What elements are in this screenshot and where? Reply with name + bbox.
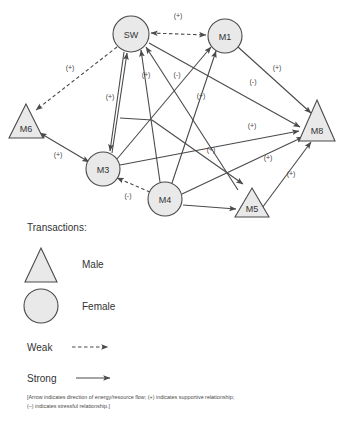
sociogram-diagram: SW M1 M6 M8 M3 M4 M5 (+) (+) (+) (+) (-)…	[0, 0, 345, 422]
node-sw-label: SW	[124, 30, 139, 40]
edge-label-sw-m8: (-)	[250, 78, 257, 86]
legend-female-icon	[24, 289, 58, 323]
edge-sw-m6	[36, 47, 117, 110]
edge-m4-m5	[183, 205, 236, 209]
edge-m6-m3	[40, 133, 89, 162]
legend: Transactions: Male Female Weak Strong [A…	[24, 222, 235, 409]
legend-title: Transactions:	[27, 222, 87, 233]
edge-sw-m3	[110, 52, 124, 151]
legend-weak-label: Weak	[27, 342, 53, 353]
edge-m3-sw	[112, 53, 127, 153]
edge-label-m4-m3: (-)	[125, 192, 132, 200]
edge-m4-sw	[141, 50, 160, 182]
edge-label-sw-m5: (+)	[207, 146, 216, 154]
legend-female-label: Female	[82, 301, 116, 312]
edge-label-m6-m3: (+)	[54, 151, 63, 159]
legend-strong-label: Strong	[27, 373, 56, 384]
node-layer: SW M1 M6 M8 M3 M4 M5	[9, 16, 335, 217]
edge-m4-m8	[182, 137, 303, 194]
footnote-line-2: (–) indicates stressful relationship.]	[27, 403, 110, 409]
edge-label-sw-m1: (+)	[174, 12, 183, 20]
edge-label-m4-sw: (-)	[174, 71, 181, 79]
node-m1-label: M1	[219, 32, 232, 42]
node-m6-label: M6	[20, 124, 33, 134]
edge-label-m3-m8: (+)	[248, 122, 257, 130]
edge-m3-m1	[117, 47, 211, 159]
footnote-line-1: [Arrow indicates direction of energy/res…	[27, 394, 235, 400]
legend-male-label: Male	[82, 259, 104, 270]
edge-label-m4-m8: (+)	[264, 154, 273, 162]
node-m4-label: M4	[159, 195, 172, 205]
edge-label-m1-m8: (+)	[273, 64, 282, 72]
node-m5-label: M5	[246, 204, 259, 214]
edge-upper-m5	[152, 120, 243, 184]
edge-label-m5-m8: (+)	[287, 170, 296, 178]
edge-label-sw-m6: (+)	[66, 64, 75, 72]
node-m8-label: M8	[311, 126, 324, 136]
edge-m5-sw	[146, 47, 238, 190]
edge-upper-m5-tail	[120, 118, 152, 120]
edge-label-m3-sw: (+)	[142, 71, 151, 79]
edge-sw-m1	[151, 33, 206, 35]
edge-sw-m8	[149, 43, 300, 127]
legend-male-icon	[25, 248, 57, 282]
edge-m4-m3	[117, 178, 150, 192]
edge-label-m3-m1: (+)	[197, 92, 206, 100]
edge-layer	[36, 33, 311, 209]
edge-label-sw-m3: (+)	[106, 93, 115, 101]
node-m3-label: M3	[97, 165, 110, 175]
